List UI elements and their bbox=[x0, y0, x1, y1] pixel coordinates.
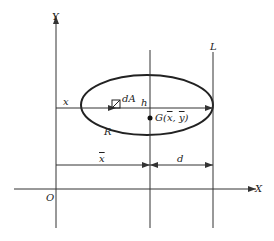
x-bar-label: x bbox=[99, 154, 105, 164]
x-coordinate-label: x bbox=[63, 97, 69, 107]
diagram-svg bbox=[0, 0, 274, 241]
diagram-canvas: Y X O L x dA h G(x, y) R x d bbox=[0, 0, 274, 241]
d-label: d bbox=[177, 154, 183, 164]
da-element-hatch bbox=[112, 100, 120, 108]
region-r-label: R bbox=[104, 127, 112, 137]
da-label: dA bbox=[122, 94, 136, 104]
centroid-suffix: ) bbox=[185, 112, 189, 123]
centroid-label: G(x, y) bbox=[155, 113, 188, 123]
centroid-point bbox=[148, 116, 153, 121]
centroid-prefix: G( bbox=[155, 112, 167, 123]
x-axis-label: X bbox=[255, 184, 262, 194]
origin-label: O bbox=[46, 193, 54, 203]
h-label: h bbox=[141, 98, 147, 108]
y-axis-label: Y bbox=[52, 12, 59, 22]
line-l-label: L bbox=[210, 42, 217, 52]
